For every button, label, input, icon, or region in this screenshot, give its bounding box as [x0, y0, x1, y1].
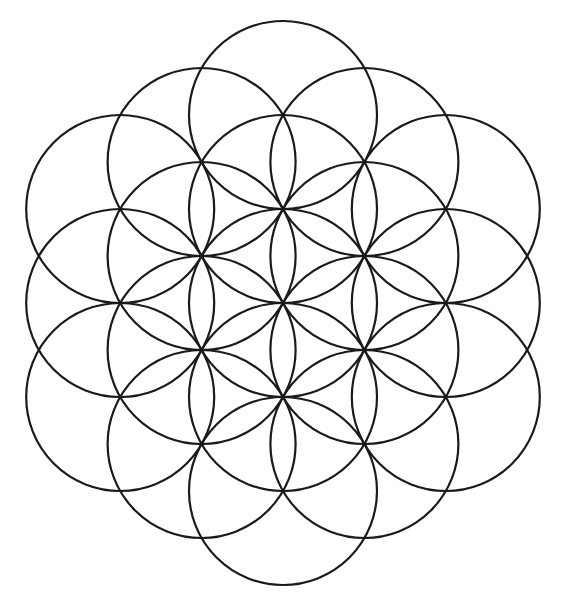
image-canvas: [0, 0, 563, 603]
flower-of-life-figure: [0, 0, 563, 603]
